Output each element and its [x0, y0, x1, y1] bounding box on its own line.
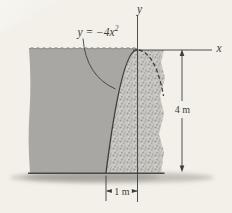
- equation-exponent: 2: [115, 24, 119, 33]
- figure-canvas: 4 m 1 m y = −4x2 y x: [0, 0, 232, 213]
- y-axis-label: y: [136, 3, 143, 16]
- parabolic-wall-figure: 4 m 1 m y = −4x2 y x: [0, 0, 232, 213]
- x-axis-label: x: [215, 42, 222, 54]
- width-dimension-label: 1 m: [114, 186, 130, 197]
- equation-label: y = −4x2: [77, 24, 119, 39]
- height-dimension-label: 4 m: [175, 104, 191, 115]
- equation-base: y = −4x: [77, 26, 116, 39]
